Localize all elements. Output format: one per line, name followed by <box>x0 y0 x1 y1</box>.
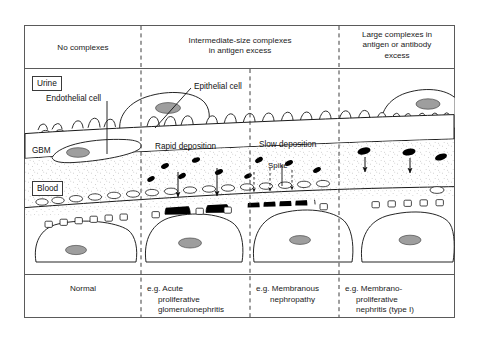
nucleus-cell-2 <box>179 238 202 248</box>
label-slow-deposition: Slow deposition <box>259 140 316 150</box>
label-gbm: GBM <box>32 146 51 156</box>
footer-membranoproliferative: e.g. Membrano- proliferative nephritis (… <box>345 284 455 316</box>
footer-membranous: e.g. Membranous nephropathy <box>256 284 340 305</box>
header-no-complexes: No complexes <box>25 43 141 53</box>
label-urine: Urine <box>32 76 62 91</box>
label-rapid-deposition: Rapid deposition <box>155 142 216 152</box>
header-large-complexes: Large complexes in antigen or antibody e… <box>339 30 455 61</box>
podocyte-nucleus-2 <box>416 99 440 109</box>
nucleus-cell-4 <box>399 235 421 245</box>
footer-normal: Normal <box>25 284 141 295</box>
label-spike: Spike <box>268 161 288 170</box>
label-endothelial-cell: Endothelial cell <box>46 94 101 104</box>
header-intermediate-complexes: Intermediate-size complexes in antigen e… <box>141 36 339 57</box>
nucleus-cell-1 <box>66 245 87 254</box>
label-epithelial-cell: Epithelial cell <box>194 82 242 92</box>
label-blood: Blood <box>32 181 63 196</box>
footer-acute-proliferative: e.g. Acute proliferative glomerulonephri… <box>147 284 251 316</box>
figure-canvas: No complexes Intermediate-size complexes… <box>0 0 478 338</box>
endothelial-nucleus <box>67 148 90 158</box>
nucleus-cell-3 <box>290 236 311 245</box>
